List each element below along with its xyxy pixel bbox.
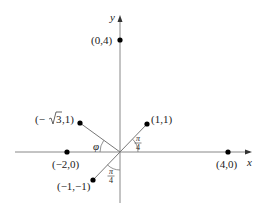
y-axis-label: y xyxy=(109,11,115,23)
pi-over-4-upper-label: π 4 xyxy=(135,134,142,152)
point-neg-sqrt3-1 xyxy=(77,120,82,125)
point-neg1-neg1 xyxy=(90,177,95,182)
point-0-4 xyxy=(117,37,122,42)
x-axis-arrow-icon xyxy=(245,150,252,155)
ray-to-neg-sqrt3-1 xyxy=(80,123,120,152)
point-neg1-neg1-label: (−1,−1) xyxy=(57,180,91,193)
point-neg-sqrt3-1-label: (− 3 ,1) xyxy=(35,112,74,126)
svg-text:(−: (− xyxy=(35,113,45,126)
x-axis-label: x xyxy=(246,156,252,168)
coordinate-diagram: x y φ π 4 π 4 (0,4) (4,0) (−2,0) (1,1) (… xyxy=(0,0,264,212)
pi-over-4-lower-label: π 4 xyxy=(108,167,115,185)
point-4-0-label: (4,0) xyxy=(216,158,237,171)
phi-label: φ xyxy=(93,140,99,152)
svg-text:4: 4 xyxy=(136,143,140,152)
point-neg2-0 xyxy=(64,149,69,154)
angle-arc-phi xyxy=(100,140,104,152)
svg-text:4: 4 xyxy=(109,176,113,185)
svg-text:,1): ,1) xyxy=(62,113,74,126)
svg-text:π: π xyxy=(136,134,141,143)
ray-to-1-1 xyxy=(120,124,147,152)
point-1-1 xyxy=(144,121,149,126)
ray-to-neg1-neg1 xyxy=(93,152,120,180)
point-4-0 xyxy=(225,149,230,154)
point-neg2-0-label: (−2,0) xyxy=(52,158,80,171)
y-axis-arrow-icon xyxy=(118,15,123,22)
point-1-1-label: (1,1) xyxy=(151,113,172,126)
point-0-4-label: (0,4) xyxy=(91,34,112,47)
